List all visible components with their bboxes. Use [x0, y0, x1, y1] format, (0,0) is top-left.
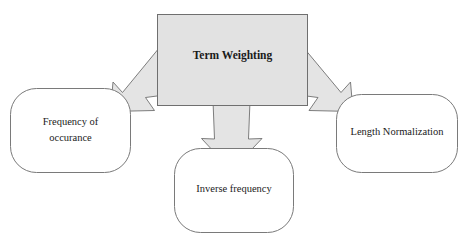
- diagram-canvas: Term Weighting Frequency of occurance In…: [0, 0, 461, 240]
- length-normalization-label: Length Normalization: [350, 126, 444, 137]
- node-term-weighting[interactable]: Term Weighting: [158, 15, 308, 106]
- term-weighting-label: Term Weighting: [193, 49, 273, 62]
- node-frequency-of-occurance[interactable]: Frequency of occurance: [11, 89, 131, 173]
- frequency-of-occurance-box[interactable]: [11, 89, 131, 173]
- frequency-of-occurance-label-line1: Frequency of: [43, 116, 99, 127]
- node-inverse-frequency[interactable]: Inverse frequency: [175, 149, 294, 233]
- frequency-of-occurance-label-line2: occurance: [49, 132, 92, 143]
- term-weighting-diagram: Term Weighting Frequency of occurance In…: [0, 0, 461, 240]
- inverse-frequency-label: Inverse frequency: [196, 183, 272, 194]
- node-length-normalization[interactable]: Length Normalization: [337, 95, 458, 173]
